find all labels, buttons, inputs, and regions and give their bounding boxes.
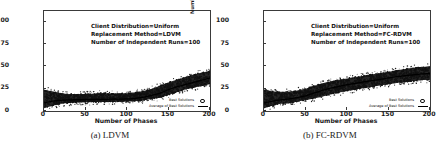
plot-area-fcrdvm: Client Distribution=Uniform Replacement … <box>263 10 431 112</box>
legend-entry-average-best-solutions: Average of Best Solutions <box>149 104 208 109</box>
legend-fcrdvm: Best Solutions Average of Best Solutions <box>369 98 428 109</box>
y-tick-label: 50 <box>0 62 9 68</box>
y-tick-label: 75 <box>0 40 9 46</box>
circle-marker-icon <box>197 99 208 104</box>
panel-caption-ldvm: (a) LDVM <box>0 130 220 140</box>
average-best-solutions-line <box>44 11 210 111</box>
x-axis-label: Number of Phases <box>263 117 429 124</box>
line-marker-icon <box>197 106 208 108</box>
y-tick-label: 100 <box>0 17 9 23</box>
figure-row: Number of Covered Mesh Clients[%] Client… <box>0 0 441 151</box>
y-tick-label: 0 <box>0 107 9 113</box>
legend-label-average-best-solutions: Average of Best Solutions <box>149 104 194 109</box>
line-marker-icon <box>417 106 428 108</box>
chart-panel-ldvm: Number of Covered Mesh Clients[%] Client… <box>0 0 220 151</box>
panel-caption-fcrdvm: (b) FC-RDVM <box>220 130 440 140</box>
chart-panel-fcrdvm: Number of Covered Mesh Clients[%] Client… <box>220 0 440 151</box>
plot-area-ldvm: Client Distribution=Uniform Replacement … <box>43 10 211 112</box>
legend-ldvm: Best Solutions Average of Best Solutions <box>149 98 208 109</box>
legend-entry-average-best-solutions: Average of Best Solutions <box>369 104 428 109</box>
legend-label-average-best-solutions: Average of Best Solutions <box>369 104 414 109</box>
y-tick-label: 25 <box>0 84 9 90</box>
average-best-solutions-line <box>264 11 430 111</box>
circle-marker-icon <box>417 99 428 104</box>
x-axis-label: Number of Phases <box>43 117 209 124</box>
